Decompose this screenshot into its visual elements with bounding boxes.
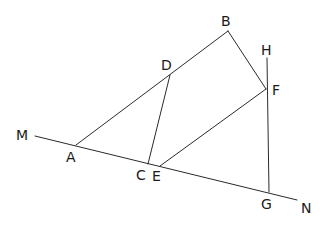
point-label-b: B [221, 13, 231, 29]
point-label-c: C [136, 167, 146, 183]
segment-HG [267, 58, 269, 192]
point-label-h: H [261, 42, 272, 58]
point-label-f: F [272, 82, 280, 98]
segment-EF [160, 89, 266, 166]
point-label-n: N [301, 200, 311, 216]
segment-BF [228, 31, 266, 89]
point-label-m: M [16, 127, 28, 143]
point-label-e: E [152, 168, 161, 184]
geometry-diagram: MABCDEFGHN [0, 0, 330, 230]
line-MN [35, 136, 297, 200]
point-label-d: D [161, 57, 172, 73]
point-label-a: A [66, 149, 76, 165]
segment-AB [76, 31, 228, 145]
point-label-g: G [261, 196, 272, 212]
